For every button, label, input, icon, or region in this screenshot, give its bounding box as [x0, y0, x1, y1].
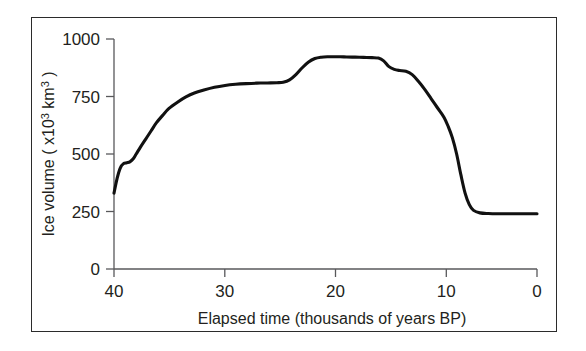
y-tick-label-1000: 1000: [62, 30, 100, 49]
y-tick-label-750: 750: [72, 88, 100, 107]
x-tick-label-30: 30: [215, 282, 234, 301]
ice-volume-curve: [114, 57, 537, 214]
y-axis-ticks: [106, 39, 114, 269]
y-tick-label-0: 0: [91, 260, 100, 279]
figure-root: 1000 750 500 250 0 40 30 20 10 0 Elapsed…: [0, 0, 586, 351]
x-axis-ticks: [114, 269, 537, 277]
figure-border: 1000 750 500 250 0 40 30 20 10 0 Elapsed…: [31, 17, 557, 332]
x-tick-label-20: 20: [326, 282, 345, 301]
y-tick-label-250: 250: [72, 203, 100, 222]
x-tick-label-10: 10: [437, 282, 456, 301]
y-axis-title: Ice volume ( x103 km3 ): [39, 71, 57, 236]
y-axis-title-suffix: ): [40, 71, 57, 81]
x-axis-title: Elapsed time (thousands of years BP): [198, 310, 467, 327]
y-tick-label-500: 500: [72, 145, 100, 164]
x-tick-label-0: 0: [532, 282, 541, 301]
y-axis-title-unit: km: [40, 87, 57, 113]
x-tick-label-40: 40: [105, 282, 124, 301]
ice-volume-line-chart: 1000 750 500 250 0 40 30 20 10 0 Elapsed…: [32, 18, 555, 330]
y-axis-title-prefix: Ice volume ( x10: [40, 119, 57, 236]
